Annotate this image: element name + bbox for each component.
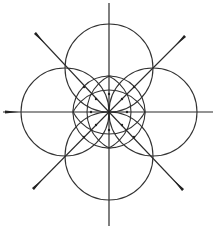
intersection-dot — [121, 124, 123, 126]
intersection-dot — [133, 136, 135, 138]
intersection-dot — [95, 98, 97, 100]
intersection-dot — [108, 129, 110, 131]
tip-se-marker-icon — [173, 180, 184, 191]
intersection-dot — [133, 86, 135, 88]
diagonal-se — [109, 112, 183, 190]
tip-west-marker-icon — [5, 111, 19, 114]
diagram-canvas — [0, 0, 214, 227]
tip-ne-marker-icon — [175, 35, 186, 46]
intersection-dot — [126, 111, 128, 113]
intersection-dot — [108, 111, 110, 113]
lines-group — [3, 3, 213, 226]
intersection-dot — [83, 136, 85, 138]
intersection-dot — [95, 124, 97, 126]
geometric-diagram — [0, 0, 214, 227]
intersection-dot — [83, 86, 85, 88]
tip-nw-marker-icon — [34, 32, 45, 43]
intersection-dot — [108, 93, 110, 95]
intersection-dot — [90, 111, 92, 113]
tip-sw-marker-icon — [32, 179, 43, 190]
diagonal-ne — [109, 36, 185, 112]
intersection-dot — [121, 98, 123, 100]
